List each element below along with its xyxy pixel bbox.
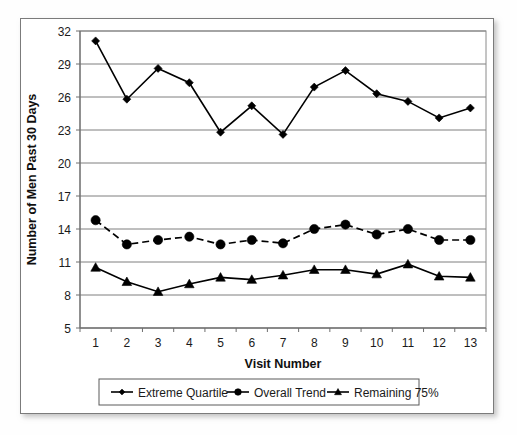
series-remaining-75 bbox=[91, 259, 475, 295]
y-tick-label: 11 bbox=[59, 256, 72, 270]
x-tick-label: 2 bbox=[124, 336, 131, 350]
marker-triangle bbox=[403, 259, 413, 268]
x-tick-label: 8 bbox=[311, 336, 318, 350]
x-tick-label: 7 bbox=[280, 336, 287, 350]
y-tick-label: 29 bbox=[58, 58, 72, 72]
marker-circle bbox=[278, 239, 287, 248]
marker-circle bbox=[341, 220, 350, 229]
x-tick-label: 9 bbox=[342, 336, 349, 350]
y-tick-label: 23 bbox=[58, 124, 72, 138]
x-tick-label: 5 bbox=[217, 336, 224, 350]
marker-circle bbox=[216, 240, 225, 249]
marker-circle bbox=[372, 230, 381, 239]
line-chart-canvas: 581114172023262932 12345678910111213 Num… bbox=[21, 19, 493, 413]
x-tick-label: 1 bbox=[92, 336, 99, 350]
series-extreme-quartile bbox=[92, 37, 475, 138]
marker-circle bbox=[247, 235, 256, 244]
legend-label: Overall Trend bbox=[254, 386, 326, 400]
y-axis-ticks-group: 581114172023262932 bbox=[58, 25, 80, 336]
x-tick-label: 3 bbox=[155, 336, 162, 350]
legend-label: Extreme Quartile bbox=[138, 386, 228, 400]
chart-frame: 581114172023262932 12345678910111213 Num… bbox=[20, 18, 494, 414]
y-tick-label: 5 bbox=[64, 322, 71, 336]
marker-diamond bbox=[185, 79, 193, 87]
plot-area-rect bbox=[80, 31, 486, 328]
data-series-group bbox=[91, 37, 475, 296]
y-tick-label: 17 bbox=[58, 190, 72, 204]
x-axis-ticks-group: 12345678910111213 bbox=[80, 328, 486, 350]
chart-figure: 581114172023262932 12345678910111213 Num… bbox=[0, 0, 517, 435]
x-tick-label: 12 bbox=[432, 336, 446, 350]
x-tick-label: 10 bbox=[370, 336, 384, 350]
series-line bbox=[96, 41, 471, 134]
marker-circle bbox=[466, 235, 475, 244]
marker-circle bbox=[310, 224, 319, 233]
marker-circle bbox=[185, 232, 194, 241]
y-tick-label: 32 bbox=[58, 25, 72, 39]
marker-diamond bbox=[404, 97, 412, 105]
x-tick-label: 11 bbox=[402, 336, 415, 350]
marker-diamond bbox=[466, 104, 474, 112]
x-axis-title-group: Visit Number bbox=[245, 357, 322, 371]
legend-label: Remaining 75% bbox=[354, 386, 439, 400]
x-tick-label: 13 bbox=[464, 336, 478, 350]
chart-legend: Extreme QuartileOverall TrendRemaining 7… bbox=[99, 379, 439, 405]
marker-circle bbox=[435, 235, 444, 244]
y-tick-label: 26 bbox=[58, 91, 72, 105]
y-tick-label: 14 bbox=[58, 223, 72, 237]
series-overall-trend bbox=[91, 216, 475, 249]
y-tick-label: 20 bbox=[58, 157, 72, 171]
x-axis-title: Visit Number bbox=[245, 357, 322, 371]
marker-circle bbox=[122, 240, 131, 249]
y-axis-title-group: Number of Men Past 30 Days bbox=[25, 94, 39, 266]
marker-triangle bbox=[91, 263, 101, 272]
y-tick-label: 8 bbox=[64, 289, 71, 303]
marker-diamond bbox=[92, 37, 100, 45]
marker-circle bbox=[235, 389, 242, 396]
y-axis-title: Number of Men Past 30 Days bbox=[25, 94, 39, 266]
plot-area-border bbox=[80, 31, 486, 328]
x-tick-label: 4 bbox=[186, 336, 193, 350]
marker-diamond bbox=[435, 114, 443, 122]
gridlines-group bbox=[80, 31, 486, 328]
x-tick-label: 6 bbox=[248, 336, 255, 350]
marker-circle bbox=[403, 224, 412, 233]
marker-circle bbox=[153, 235, 162, 244]
marker-circle bbox=[91, 216, 100, 225]
marker-triangle bbox=[122, 277, 132, 286]
